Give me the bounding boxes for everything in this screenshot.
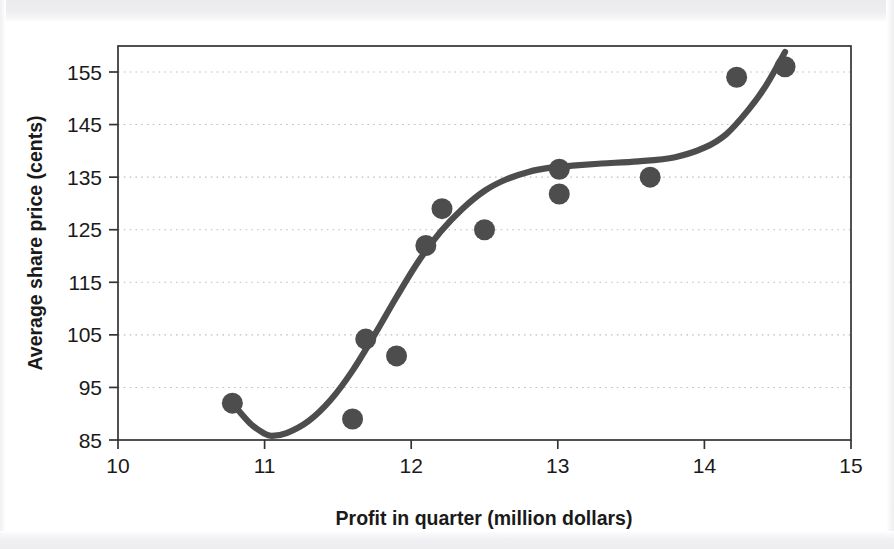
y-tick-label: 115 [69,271,102,294]
x-tick-label: 15 [839,454,862,477]
data-point-marker [386,345,407,366]
x-tick-label: 11 [254,454,276,477]
x-axis-ticks [118,440,851,449]
x-axis-title: Profit in quarter (million dollars) [336,507,633,529]
trend-curve [232,52,785,436]
data-points [222,56,796,429]
x-axis-tick-labels: 101112131415 [106,454,862,477]
x-tick-label: 14 [693,454,717,477]
chart-figure: 101112131415 8595105115125135145155 Prof… [0,0,894,549]
y-tick-label: 145 [67,113,102,136]
plot-frame [118,46,851,440]
trend-curve-path [232,52,785,436]
data-point-marker [431,198,452,219]
y-tick-label: 95 [79,376,102,399]
data-point-marker [474,219,495,240]
y-tick-label: 85 [79,429,102,452]
y-tick-label: 105 [67,323,102,346]
y-axis-tick-labels: 8595105115125135145155 [67,61,102,452]
data-point-marker [549,183,570,204]
data-point-marker [549,159,570,180]
data-point-marker [342,408,363,429]
y-tick-label: 135 [67,166,102,189]
data-point-marker [726,67,747,88]
data-point-marker [355,329,376,350]
data-point-marker [640,167,661,188]
y-tick-label: 125 [67,218,102,241]
y-axis-title: Average share price (cents) [24,115,46,370]
x-tick-label: 13 [546,454,569,477]
y-axis-ticks [109,72,118,440]
x-tick-label: 12 [400,454,423,477]
x-tick-label: 10 [106,454,129,477]
y-tick-label: 155 [67,61,102,84]
data-point-marker [222,393,243,414]
data-point-marker [775,56,796,77]
scatter-plot: 101112131415 8595105115125135145155 Prof… [0,0,894,549]
data-point-marker [415,235,436,256]
